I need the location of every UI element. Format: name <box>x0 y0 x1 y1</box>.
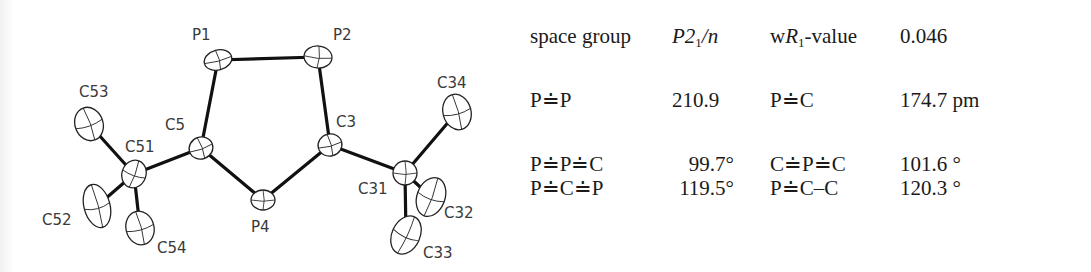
atom-label-c32: C32 <box>444 204 474 222</box>
pp-bond-value: 210.9 <box>672 88 719 113</box>
ppc-angle-value: 99.7° <box>672 152 734 177</box>
atom-label-p1: P1 <box>192 26 211 44</box>
bond-P2-C3 <box>318 57 330 145</box>
bond-C5-P4 <box>201 148 263 200</box>
wr1-r: R <box>785 24 798 48</box>
wr1-suffix: -value <box>805 24 857 48</box>
atom-ellipsoid-c31 <box>393 161 417 185</box>
space-group-symbol: P2 <box>672 24 695 48</box>
space-group-value: P21/n <box>672 24 718 49</box>
cpc-angle-label: C≐P≐C <box>770 152 846 177</box>
ortep-molecule-diagram: P1P2C5C3P4C51C53C52C54C31C34C32C33 <box>0 0 520 272</box>
pc-bond-value: 174.7 pm <box>900 88 979 113</box>
space-group-label: space group <box>530 24 631 49</box>
atom-label-c3: C3 <box>336 113 356 131</box>
atom-label-p4: P4 <box>251 218 270 236</box>
pcc-angle-value: 120.3 ° <box>900 176 961 201</box>
bond-C3-P4 <box>263 145 330 200</box>
pp-bond-label: P≐P <box>530 88 571 113</box>
pcp-angle-value: 119.5° <box>672 176 734 201</box>
atom-ellipsoid-c33 <box>385 211 427 259</box>
pc-bond-label: P≐C <box>770 88 814 113</box>
wr1-prefix: w <box>770 24 785 48</box>
cpc-angle-value: 101.6 ° <box>900 152 961 177</box>
atom-label-c34: C34 <box>437 74 467 92</box>
atom-label-c33: C33 <box>423 244 453 262</box>
atom-label-c54: C54 <box>157 239 187 257</box>
wr1-value: 0.046 <box>900 24 947 49</box>
wr1-label: wR1-value <box>770 24 857 49</box>
pcp-angle-label: P≐C≐P <box>530 176 603 201</box>
atom-ellipsoid-c52 <box>79 181 116 230</box>
pcc-angle-label: P≐C–C <box>770 176 838 201</box>
atom-label-c52: C52 <box>42 211 72 229</box>
atom-label-c31: C31 <box>358 180 388 198</box>
atom-ellipsoid-p1 <box>202 47 234 74</box>
bond-P1-C5 <box>201 60 218 148</box>
atom-label-p2: P2 <box>333 26 352 44</box>
atom-label-c53: C53 <box>79 83 109 101</box>
space-group-tail: /n <box>702 24 718 48</box>
atom-ellipsoid-p4 <box>251 190 275 210</box>
atom-ellipsoid-p2 <box>303 45 333 69</box>
atom-ellipsoid-c54 <box>122 208 158 248</box>
atom-label-c51: C51 <box>125 138 155 156</box>
bond-P1-P2 <box>218 57 318 60</box>
atom-label-c5: C5 <box>165 116 185 134</box>
ppc-angle-label: P≐P≐C <box>530 152 603 177</box>
